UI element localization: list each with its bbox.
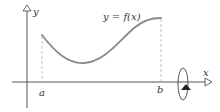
solid-of-revolution-diagram: y x y = f(x) a b: [0, 0, 220, 112]
y-axis: [23, 5, 31, 108]
curve-f-of-x: [42, 18, 161, 63]
rotation-marker-icon: [178, 68, 191, 100]
a-label: a: [39, 87, 45, 98]
y-axis-arrow-icon: [23, 5, 31, 11]
y-axis-label: y: [32, 6, 39, 17]
b-label: b: [157, 84, 163, 95]
curve-label: y = f(x): [102, 11, 141, 22]
x-axis-label: x: [203, 67, 209, 78]
x-axis-arrow-icon: [205, 78, 212, 86]
